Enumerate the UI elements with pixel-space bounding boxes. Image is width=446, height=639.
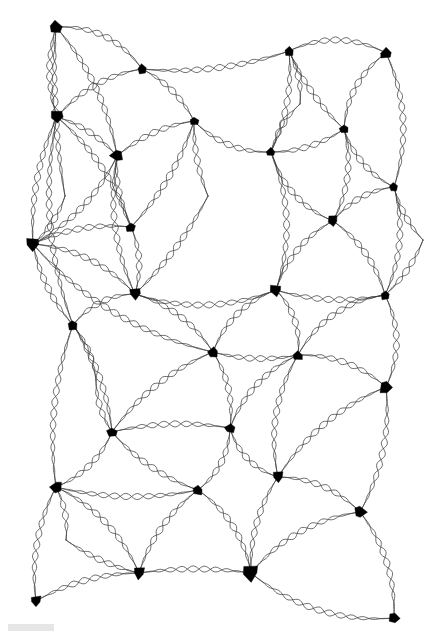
artifact-layer <box>8 624 54 631</box>
network-diagram-figure <box>0 0 446 639</box>
network-canvas <box>0 0 446 639</box>
page-smudge-artifact <box>8 624 54 631</box>
canvas-background <box>0 0 446 639</box>
